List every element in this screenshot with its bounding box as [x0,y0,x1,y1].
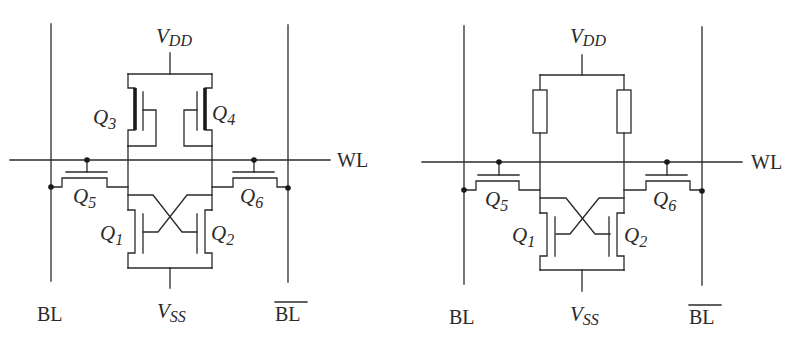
transistor-q2 [197,210,212,268]
transistor-q1 [128,210,143,268]
q5-label: Q5 [73,184,96,211]
vss-label-right: VSS [570,302,599,328]
q6-label-right: Q6 [653,187,676,214]
transistor-q1-right [540,213,555,270]
q5-label-right: Q5 [485,187,508,214]
wl-label: WL [337,149,368,171]
junction-dot [84,157,90,163]
transistor-q5 [51,160,128,187]
vdd-label: VDD [156,24,192,49]
left-sram-cell-6t: VDD WL BL BL VSS Q3 Q4 Q5 Q6 Q1 Q2 [10,24,368,325]
junction-dot [461,187,467,193]
load-resistor-right [617,90,631,133]
q1-label-right: Q1 [512,223,535,250]
q4-label: Q4 [212,101,235,128]
bl-label-right: BL [449,306,475,328]
q1-label: Q1 [100,221,123,248]
junction-dot [48,184,54,190]
vss-label: VSS [157,299,186,325]
wl-label-right: WL [751,151,782,173]
junction-dot [251,157,257,163]
junction-dot [285,185,291,191]
q6-label: Q6 [240,184,263,211]
bl-bar-label-right: BL [689,306,715,328]
q3-label: Q3 [93,105,116,132]
transistor-q6-right [624,162,702,190]
transistor-q3 [128,74,156,146]
transistor-q5-right [464,162,540,190]
q2-label-right: Q2 [624,223,647,250]
cross-coupling [128,195,212,232]
vdd-label-right: VDD [570,24,606,49]
right-sram-cell-4t: VDD WL BL BL VSS Q5 Q6 Q1 Q2 [422,24,782,328]
transistor-q6 [212,160,288,187]
transistor-q4 [184,74,212,146]
transistor-q2-right [609,213,624,270]
junction-dot [496,159,502,165]
bl-label: BL [37,303,63,325]
bl-bar-label: BL [275,303,301,325]
junction-dot [664,159,670,165]
junction-dot [699,188,705,194]
cross-coupling-right [540,198,624,234]
q2-label: Q2 [211,221,234,248]
load-resistor-left [533,90,547,133]
